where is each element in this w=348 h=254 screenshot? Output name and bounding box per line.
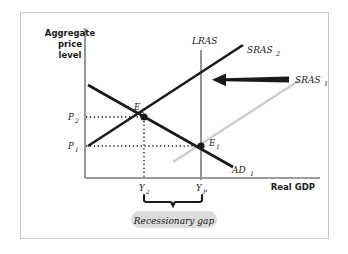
x-axis-title: Real GDP (271, 182, 315, 192)
y2-label-text: Y (139, 183, 146, 193)
e2-label-subscript: 2 (140, 107, 145, 114)
sras2-label-subscript: 2 (275, 50, 280, 58)
p2-label-text: P (67, 112, 74, 122)
sras1-label-text: SRAS (295, 75, 321, 85)
price-tick-p2: P 2 (67, 112, 79, 124)
equilibrium-point-e1 (197, 142, 204, 149)
ad1-label-subscript: 1 (250, 170, 254, 178)
output-tick-yp: Y P (196, 183, 208, 195)
label-lras: LRAS (191, 36, 217, 46)
yp-label-subscript: P (202, 188, 208, 195)
guide-lines-group (86, 117, 201, 178)
e1-label-subscript: 1 (216, 143, 220, 150)
recessionary-gap-brace (144, 195, 202, 206)
y-axis-title: Aggregate price level (45, 28, 96, 60)
ad-as-diagram: Aggregate price level Real GDP (0, 0, 348, 254)
price-tick-p1: P 1 (67, 141, 79, 153)
e1-label-text: E (208, 138, 216, 148)
sras2-label-text: SRAS (247, 45, 273, 55)
figure-container: Aggregate price level Real GDP (0, 0, 348, 254)
output-tick-y2: Y 2 (139, 183, 150, 195)
label-ad1: AD 1 (231, 165, 254, 178)
equilibrium-point-e2 (140, 113, 147, 120)
label-e1: E 1 (208, 138, 220, 150)
p1-label-subscript: 1 (75, 146, 79, 153)
y-axis-title-line1: Aggregate (45, 28, 96, 38)
p2-label-subscript: 2 (74, 117, 79, 124)
yp-label-text: Y (196, 183, 203, 193)
p1-label-text: P (67, 141, 74, 151)
label-sras1: SRAS 1 (295, 75, 328, 88)
label-sras2: SRAS 2 (247, 45, 280, 58)
y-axis-title-line3: level (59, 50, 82, 60)
recessionary-gap-label: Recessionary gap (131, 211, 217, 228)
lras-label-text: LRAS (191, 36, 217, 46)
sras1-curve (173, 80, 300, 162)
e2-label-text: E (133, 102, 141, 112)
gap-label-text: Recessionary gap (133, 216, 215, 226)
sras1-label-subscript: 1 (324, 80, 328, 88)
ad1-label-text: AD (231, 165, 246, 175)
y2-label-subscript: 2 (145, 188, 150, 195)
leftward-shift-arrow (212, 74, 289, 87)
y-axis-title-line2: price (58, 39, 82, 49)
